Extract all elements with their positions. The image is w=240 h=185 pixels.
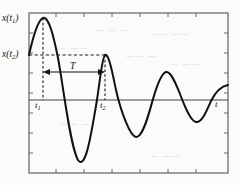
x-label-t2: t2 xyxy=(100,101,106,111)
x-label-t2-sub: 2 xyxy=(103,105,106,111)
tick-marks-right xyxy=(224,33,228,153)
y-label-peak1: x(t1) xyxy=(2,14,18,24)
x-axis-label: t xyxy=(215,100,218,109)
period-label: T xyxy=(70,62,75,72)
x-label-t1: t1 xyxy=(35,101,41,111)
damped-sine-curve xyxy=(29,18,228,162)
y-label-peak2: x(t2) xyxy=(2,50,18,60)
plot-frame xyxy=(29,13,228,173)
figure-container: — — — —— —— — —— —— — — —— —— — — —— x(t… xyxy=(0,0,240,185)
damped-oscillation-figure xyxy=(0,0,240,185)
x-label-t1-sub: 1 xyxy=(38,105,41,111)
tick-marks-top xyxy=(56,13,196,17)
tick-marks-bottom xyxy=(56,169,196,173)
